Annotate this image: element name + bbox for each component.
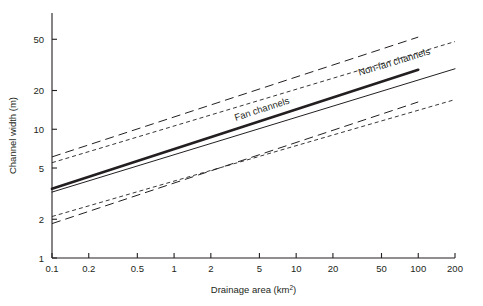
x-tick-label-200: 200 <box>447 263 463 274</box>
series-label-fan-channels: Fan channels <box>233 95 291 123</box>
x-axis-title-group: Drainage area (km2) <box>211 284 296 296</box>
x-tick-label-2: 2 <box>208 263 213 274</box>
chart-canvas: 0.10.20.5125102050100200125102050Fan cha… <box>0 0 483 306</box>
x-tick-label-0.2: 0.2 <box>82 263 95 274</box>
series-label-non-fan-channels: Non-fan channels <box>357 45 432 77</box>
x-tick-label-20: 20 <box>328 263 339 274</box>
series-line-fan-channels <box>52 70 418 189</box>
y-tick-label-20: 20 <box>33 85 44 96</box>
series-line-non-fan-channels <box>52 69 455 192</box>
x-tick-label-5: 5 <box>257 263 262 274</box>
y-tick-label-5: 5 <box>39 163 44 174</box>
y-tick-label-2: 2 <box>39 214 44 225</box>
x-tick-label-10: 10 <box>291 263 302 274</box>
x-axis-title: Drainage area (km2) <box>211 284 296 296</box>
x-tick-label-50: 50 <box>376 263 387 274</box>
y-tick-label-1: 1 <box>39 253 44 264</box>
chart-figure: 0.10.20.5125102050100200125102050Fan cha… <box>0 0 483 306</box>
y-tick-label-50: 50 <box>33 34 44 45</box>
x-tick-label-100: 100 <box>410 263 426 274</box>
y-axis-title-group: Channel width (m) <box>7 97 18 174</box>
x-tick-label-0.5: 0.5 <box>131 263 144 274</box>
series-label-group-non-fan-channels: Non-fan channels <box>357 45 432 77</box>
x-tick-label-1: 1 <box>171 263 176 274</box>
series-label-group-fan-channels: Fan channels <box>233 95 291 123</box>
x-tick-label-0.1: 0.1 <box>45 263 58 274</box>
y-tick-label-10: 10 <box>33 124 44 135</box>
y-axis-title: Channel width (m) <box>7 97 18 174</box>
